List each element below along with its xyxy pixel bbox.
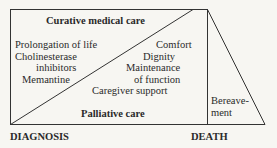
curative-item: Cholinesterase <box>15 51 77 62</box>
palliative-item: Comfort <box>156 39 192 50</box>
death-label: DEATH <box>191 131 228 142</box>
diagnosis-label: DIAGNOSIS <box>10 131 69 142</box>
palliative-item: Maintenance <box>126 62 180 73</box>
palliative-item: of function <box>134 74 180 85</box>
palliative-item: Caregiver support <box>92 85 168 96</box>
curative-item: Memantine <box>22 74 70 85</box>
palliative-care-title: Palliative care <box>81 108 145 119</box>
curative-care-title: Curative medical care <box>46 15 145 26</box>
palliative-item: Dignity <box>143 51 175 62</box>
bereavement-label: ment <box>211 107 232 118</box>
curative-item: Prolongation of life <box>15 39 97 50</box>
curative-item: inhibitors <box>36 62 76 73</box>
bereavement-label: Bereave- <box>211 95 249 106</box>
